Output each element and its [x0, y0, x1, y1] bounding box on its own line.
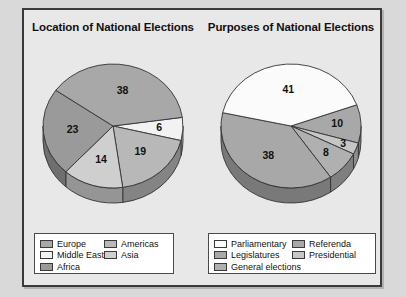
legend-item-legislatures: Legislatures: [214, 250, 292, 261]
legend-swatch-icon: [292, 240, 305, 248]
pie-left-svg: 619142338: [29, 46, 197, 218]
legend-item-presidential: Presidential: [292, 250, 370, 261]
legend-item-asia: Asia: [104, 250, 168, 261]
legend-swatch-icon: [214, 240, 227, 248]
legend-item-africa: Africa: [40, 261, 168, 272]
legend-swatch-icon: [214, 263, 227, 271]
pie-slice-value-presidential: 3: [340, 137, 346, 149]
pie-slice-value-general-elections: 8: [323, 146, 329, 158]
legend-swatch-icon: [40, 240, 53, 248]
legend-label: Americas: [121, 239, 159, 249]
legend-left: EuropeAmericasMiddle EastAsiaAfrica: [34, 233, 174, 274]
legend-label: Middle East: [57, 250, 104, 260]
legend-right: ParliamentaryReferendaLegislaturesPresid…: [208, 233, 376, 274]
pie-slice-value-referenda: 10: [331, 117, 343, 129]
legend-item-referenda: Referenda: [292, 238, 370, 249]
chart-purposes-of-national-elections: Purposes of National Elections 10383841 …: [202, 10, 380, 285]
legend-item-parliamentary: Parliamentary: [214, 238, 292, 249]
pie-slice-value-middle-east: 6: [156, 121, 162, 133]
legend-swatch-icon: [40, 251, 53, 259]
legend-label: Asia: [121, 250, 139, 260]
legend-label: Parliamentary: [231, 239, 287, 249]
pie-chart-right: 10383841: [207, 46, 375, 218]
chart-title-left: Location of National Elections: [24, 21, 202, 33]
pie-slice-value-europe: 38: [117, 84, 129, 96]
legend-label: Europe: [57, 239, 86, 249]
legend-item-europe: Europe: [40, 238, 104, 249]
pie-slice-value-americas: 19: [134, 145, 146, 157]
pie-chart-left: 619142338: [29, 46, 197, 218]
pie-slice-value-africa: 23: [67, 123, 79, 135]
legend-item-americas: Americas: [104, 238, 168, 249]
legend-swatch-icon: [104, 240, 117, 248]
pie-slice-value-legislatures: 38: [262, 149, 274, 161]
legend-label: Presidential: [309, 250, 356, 260]
chart-location-of-national-elections: Location of National Elections 619142338…: [24, 10, 202, 285]
pie-right-svg: 10383841: [207, 46, 375, 218]
chart-title-right: Purposes of National Elections: [202, 21, 380, 33]
legend-label: Legislatures: [231, 250, 280, 260]
legend-swatch-icon: [104, 251, 117, 259]
legend-swatch-icon: [40, 263, 53, 271]
legend-swatch-icon: [214, 251, 227, 259]
legend-label: Referenda: [309, 239, 351, 249]
figure-panel: Location of National Elections 619142338…: [22, 8, 382, 287]
legend-item-general-elections: General elections: [214, 261, 370, 272]
pie-slice-value-asia: 14: [95, 153, 107, 165]
legend-label: General elections: [231, 262, 301, 272]
legend-label: Africa: [57, 262, 80, 272]
pie-slice-value-parliamentary: 41: [282, 83, 294, 95]
charts-row: Location of National Elections 619142338…: [24, 10, 380, 285]
legend-swatch-icon: [292, 251, 305, 259]
legend-item-middle-east: Middle East: [40, 250, 104, 261]
